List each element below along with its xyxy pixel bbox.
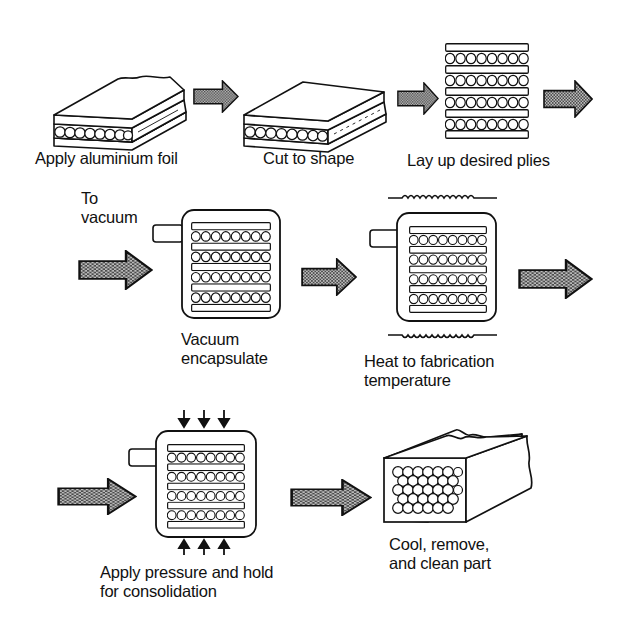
heating-coil-bottom-icon [388,335,497,338]
step-6-label-line-1: Apply pressure and hold [100,563,273,582]
flow-arrow-2-to-3 [398,83,438,114]
step-3-label: Lay up desired plies [407,151,550,170]
flow-arrow-row2-entry [80,251,152,289]
step-4-label-line-2: encapsulate [181,349,268,368]
flow-arrow-row3-entry [59,479,136,514]
pressure-container-icon [129,410,256,555]
step-5-label: Heat to fabrication temperature [364,352,494,390]
step-4-label-line-1: Vacuum [181,330,268,349]
flow-arrow-5-to-6 [520,260,592,298]
step-5-label-line-1: Heat to fabrication [364,352,494,371]
step-2-label: Cut to shape [263,149,354,168]
step-7-label-line-2: and clean part [389,554,491,573]
foil-sheet-icon [54,76,186,150]
pressure-arrows-up-icon [179,540,229,555]
vacuum-container-icon [153,210,280,318]
step-1-label: Apply aluminium foil [35,149,178,168]
part-cross-section [384,458,466,522]
pressure-arrows-down-icon [179,410,229,427]
step-7-label-line-1: Cool, remove, [389,535,491,554]
flow-arrow-4-to-5 [302,259,356,295]
to-vacuum-annotation: To vacuum [81,189,138,227]
cut-sheet-icon [244,82,386,152]
process-diagram [0,0,632,623]
to-vacuum-line-1: To [81,189,138,208]
flow-arrow-6-to-7 [292,480,371,515]
heated-container-icon [370,196,497,338]
flow-arrow-3-to-4 [544,81,592,117]
step-7-label: Cool, remove, and clean part [389,535,491,573]
step-6-label: Apply pressure and hold for consolidatio… [100,563,273,601]
step-5-label-line-2: temperature [364,371,494,390]
ply-stack-icon [445,44,528,139]
heating-coil-top-icon [388,196,497,199]
flow-arrow-1-to-2 [194,81,238,112]
step-6-label-line-2: for consolidation [100,582,273,601]
step-4-label: Vacuum encapsulate [181,330,268,368]
to-vacuum-line-2: vacuum [81,208,138,227]
